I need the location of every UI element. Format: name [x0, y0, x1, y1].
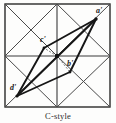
label-b-prime: b' [67, 59, 73, 68]
label-d-prime: d' [10, 83, 16, 92]
node-c-prime [43, 47, 46, 50]
label-a-prime: a' [96, 6, 102, 15]
node-b-prime [69, 71, 72, 74]
diagram-canvas [0, 0, 116, 110]
label-c-prime: c' [40, 35, 46, 44]
node-d-prime [15, 94, 18, 97]
geometric-diagram: a' c' b' d' [0, 0, 116, 110]
node-a-prime [94, 17, 97, 20]
figure-screenshot: a' c' b' d' C-style [0, 0, 116, 123]
node-center [55, 54, 59, 58]
figure-caption: C-style [0, 111, 116, 123]
